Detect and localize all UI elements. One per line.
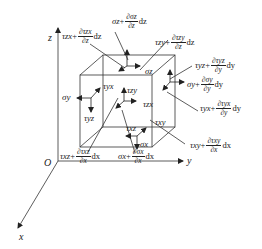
fraction: ∂σy∂y [201, 76, 214, 92]
label-sx-dx: σx + ∂σx∂x dx [118, 148, 154, 164]
x-axis [18, 161, 58, 228]
label-txz-dx: τxz + ∂τxz∂x dx [60, 148, 100, 164]
y-axis-label: y [187, 155, 191, 166]
label-tyx-dy: τyx + ∂τyx∂y dy [200, 100, 241, 116]
inner-tau-zx: τzx [143, 100, 153, 109]
origin-label: O [44, 157, 51, 168]
fraction: ∂τzy∂z [171, 34, 186, 50]
x-axis-label: x [19, 231, 23, 242]
fraction: ∂τxy∂x [206, 137, 221, 153]
inner-sigma-x: σx [140, 140, 148, 149]
label-tzx-dz: τzx + ∂τzx∂z dz [62, 28, 102, 44]
inner-tau-yx: τyx [103, 82, 114, 91]
fraction: ∂τyz∂y [211, 57, 226, 73]
z-axis-label: z [48, 32, 52, 43]
fraction: ∂σz∂z [125, 13, 137, 29]
fraction: ∂τxz∂x [76, 148, 91, 164]
inner-sigma-y: σy [62, 93, 70, 102]
inner-tau-xy: τxy [155, 118, 166, 127]
label-txy-dx: τxy + ∂τxy∂x dx [190, 137, 231, 153]
label-sz-dz: σz + ∂σz∂z dz [112, 13, 147, 29]
inner-tau-yz: τyz [84, 114, 94, 123]
fraction: ∂τyx∂y [216, 100, 231, 116]
fraction: ∂σx∂x [132, 148, 145, 164]
label-tzy-dz: τzy + ∂τzy∂z dz [155, 34, 195, 50]
label-tyz-dy: τyz + ∂τyz∂y dy [195, 57, 235, 73]
label-sy-dy: σy + ∂σy∂y dy [187, 76, 223, 92]
inner-sigma-z: σz [145, 67, 153, 76]
fraction: ∂τzx∂z [78, 28, 93, 44]
inner-tau-xz: τxz [126, 124, 136, 133]
inner-tau-zy: τzy [127, 86, 137, 95]
